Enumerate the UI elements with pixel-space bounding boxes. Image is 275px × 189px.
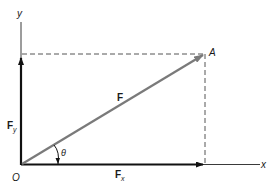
fy-label: Fy [7,120,17,134]
origin-label: O [12,172,20,183]
angle-arc-arrowhead [56,158,61,164]
y-axis-label: y [16,8,23,19]
f-vector-label: F [117,92,123,103]
theta-label: θ [61,148,66,158]
point-a-label: A [208,47,216,58]
x-axis-label: x [260,159,267,170]
vector-diagram: y x O A F Fy Fx θ [0,0,275,189]
fx-label: Fx [115,169,125,182]
f-vector-arrow [22,55,203,164]
